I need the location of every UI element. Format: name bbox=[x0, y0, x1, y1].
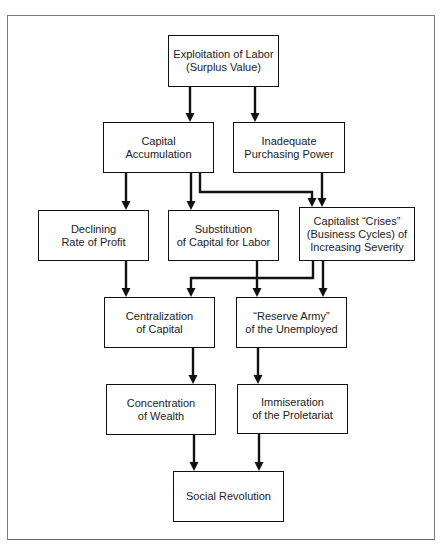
node-label-line: Capitalist “Crises” bbox=[314, 215, 401, 228]
node-label-line: (Surplus Value) bbox=[186, 61, 261, 74]
node-label-line: Accumulation bbox=[125, 148, 191, 161]
node-label-line: of Capital bbox=[136, 323, 182, 336]
node-concentration-of-wealth: Concentration of Wealth bbox=[106, 384, 216, 435]
node-label-line: Immiseration bbox=[261, 396, 324, 409]
node-label-line: of the Unemployed bbox=[245, 323, 337, 336]
node-label-line: Capital bbox=[141, 135, 175, 148]
node-social-revolution: Social Revolution bbox=[173, 471, 284, 522]
node-label-line: Inadequate bbox=[261, 135, 316, 148]
node-immiseration-of-proletariat: Immiseration of the Proletariat bbox=[237, 384, 348, 434]
node-label-line: Increasing Severity bbox=[310, 241, 404, 254]
node-label-line: Declining bbox=[71, 223, 116, 236]
node-label-line: Substitution bbox=[195, 223, 252, 236]
diagram-frame bbox=[7, 15, 435, 540]
node-capital-accumulation: Capital Accumulation bbox=[103, 122, 214, 173]
node-reserve-army-of-unemployed: “Reserve Army” of the Unemployed bbox=[236, 297, 347, 348]
node-centralization-of-capital: Centralization of Capital bbox=[104, 297, 215, 348]
node-label-line: Centralization bbox=[126, 310, 193, 323]
node-label-line: “Reserve Army” bbox=[253, 310, 329, 323]
node-label-line: Exploitation of Labor bbox=[173, 48, 273, 61]
node-label-line: of Wealth bbox=[138, 410, 184, 423]
node-label-line: Rate of Profit bbox=[61, 236, 125, 249]
node-exploitation-of-labor: Exploitation of Labor (Surplus Value) bbox=[168, 35, 279, 87]
node-label-line: (Business Cycles) of bbox=[307, 228, 407, 241]
node-label-line: of Capital for Labor bbox=[177, 236, 271, 249]
node-substitution-of-capital-for-labor: Substitution of Capital for Labor bbox=[168, 210, 279, 261]
node-label-line: Purchasing Power bbox=[244, 148, 333, 161]
node-label-line: Concentration bbox=[127, 397, 196, 410]
node-label-line: of the Proletariat bbox=[252, 409, 333, 422]
node-declining-rate-of-profit: Declining Rate of Profit bbox=[38, 210, 149, 261]
node-inadequate-purchasing-power: Inadequate Purchasing Power bbox=[233, 122, 345, 173]
node-label-line: Social Revolution bbox=[186, 490, 271, 503]
node-capitalist-crises: Capitalist “Crises” (Business Cycles) of… bbox=[299, 207, 415, 261]
